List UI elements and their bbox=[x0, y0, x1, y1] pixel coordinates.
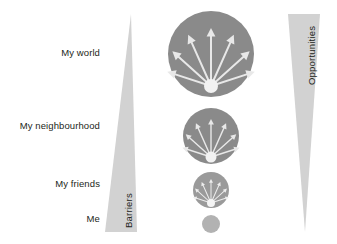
label-barriers: Barriers bbox=[123, 193, 134, 228]
circle-me bbox=[202, 215, 220, 233]
circle-group-my-world bbox=[166, 11, 256, 97]
label-me: Me bbox=[87, 213, 100, 224]
circle-group-me bbox=[202, 215, 220, 233]
label-opportunities: Opportunities bbox=[306, 26, 317, 85]
label-my-world: My world bbox=[61, 47, 100, 58]
label-my-neighbourhood: My neighbourhood bbox=[20, 120, 100, 131]
hub-my-friends bbox=[207, 199, 215, 207]
circle-group-my-friends bbox=[192, 172, 229, 208]
hub-my-neighbourhood bbox=[206, 152, 217, 163]
circle-group-my-neighbourhood bbox=[182, 108, 241, 164]
diagram-canvas: My world My neighbourhood My friends Me … bbox=[0, 0, 337, 244]
label-my-friends: My friends bbox=[55, 178, 100, 189]
hub-my-world bbox=[204, 79, 218, 93]
